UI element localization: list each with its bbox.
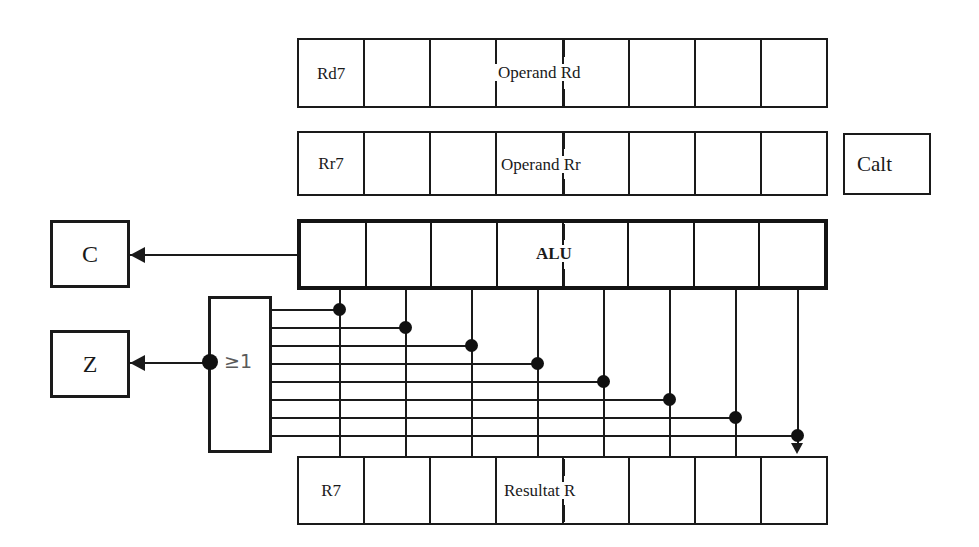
- or-input-dot-2: [663, 393, 676, 406]
- operand-rd-msb-label: Rd7: [317, 65, 345, 82]
- alu-elision-top: [563, 224, 565, 240]
- or-input-line-2: [272, 399, 671, 401]
- or-input-line-7: [272, 309, 341, 311]
- bit-line-v-3: [603, 290, 605, 456]
- operand-rd-cell-5: [431, 40, 497, 106]
- zero-flag-box: Z: [50, 330, 130, 398]
- calt-label: Calt: [857, 152, 892, 177]
- operand-rd-elision-bottom: [563, 89, 565, 106]
- or-input-dot-5: [465, 339, 478, 352]
- carry-flag-label: C: [82, 241, 98, 268]
- alu-elision-bottom: [563, 269, 565, 286]
- operand-rr-cell-2: [630, 133, 696, 194]
- or-input-line-0: [272, 435, 799, 437]
- carry-arrow-icon: [130, 247, 145, 263]
- or-input-dot-1: [729, 411, 742, 424]
- operand-rd-cell-0: [762, 40, 826, 106]
- alu-flag-diagram: Rd7 Operand Rd Rr7 Operand Rr Calt: [0, 0, 979, 547]
- or-gate-label: ≥1: [224, 352, 252, 371]
- bit-line-v-5: [471, 290, 473, 456]
- carry-wire: [130, 254, 297, 256]
- or-gate-output-junction-dot: [202, 354, 218, 370]
- or-gate: [208, 296, 272, 453]
- bit-line-v-4: [537, 290, 539, 456]
- operand-rd-cell-2: [630, 40, 696, 106]
- operand-rr-msb-label: Rr7: [318, 155, 344, 172]
- or-input-dot-3: [597, 375, 610, 388]
- calt-box: Calt: [843, 133, 931, 195]
- result-span-label: Resultat R: [500, 482, 579, 499]
- or-input-line-5: [272, 345, 473, 347]
- operand-rr-cell-1: [696, 133, 762, 194]
- alu-cell-6: [367, 223, 433, 286]
- result-cell-1: [696, 458, 762, 523]
- zero-arrow-icon: [130, 355, 145, 371]
- operand-rr-elision-bottom: [563, 179, 565, 195]
- alu-cell-7: [301, 223, 367, 286]
- operand-rd-cell-6: [365, 40, 431, 106]
- result-elision-top: [563, 459, 565, 476]
- operand-rr-elision-top: [563, 133, 565, 149]
- result-cell-5: [431, 458, 497, 523]
- result-msb-label: R7: [321, 482, 341, 499]
- or-input-dot-7: [333, 303, 346, 316]
- or-input-line-6: [272, 327, 407, 329]
- result-cell-0: [762, 458, 826, 523]
- operand-rd-elision-top: [563, 40, 565, 57]
- or-input-dot-4: [531, 357, 544, 370]
- operand-rr-cell-6: [365, 133, 431, 194]
- bit-line-0-arrow-icon: [791, 443, 803, 454]
- bit-line-v-6: [405, 290, 407, 456]
- alu-cell-2: [629, 223, 695, 286]
- carry-flag-box: C: [50, 220, 130, 288]
- or-input-line-4: [272, 363, 539, 365]
- bit-line-v-2: [669, 290, 671, 456]
- result-cell-6: [365, 458, 431, 523]
- alu-cell-1: [695, 223, 761, 286]
- or-input-line-3: [272, 381, 605, 383]
- operand-rr-span-label: Operand Rr: [497, 156, 585, 173]
- alu-span-label: ALU: [532, 245, 576, 262]
- bit-line-v-1: [735, 290, 737, 456]
- or-input-dot-0: [791, 429, 804, 442]
- operand-rd-cell-1: [696, 40, 762, 106]
- operand-rr-cell-7: Rr7: [299, 133, 365, 194]
- operand-rd-span-label: Operand Rd: [494, 64, 585, 81]
- result-cell-2: [630, 458, 696, 523]
- or-input-dot-6: [399, 321, 412, 334]
- alu-cell-5: [432, 223, 498, 286]
- operand-rr-cell-5: [431, 133, 497, 194]
- bit-line-v-0: [797, 290, 799, 445]
- zero-flag-label: Z: [83, 351, 98, 378]
- result-cell-7: R7: [299, 458, 365, 523]
- alu-cell-0: [760, 223, 824, 286]
- operand-rd-cell-7: Rd7: [299, 40, 365, 106]
- operand-rr-cell-0: [762, 133, 826, 194]
- result-elision-bottom: [563, 505, 565, 522]
- or-input-line-1: [272, 417, 737, 419]
